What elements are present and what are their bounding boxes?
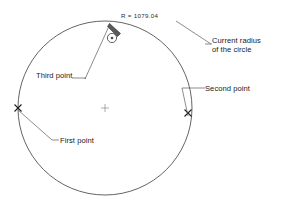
radius-readout-label: R = 1079.04 — [121, 11, 158, 20]
third-point-annotation: Third point — [36, 71, 72, 80]
second-point-annotation: Second point — [205, 84, 250, 93]
current-radius-leader-line — [176, 21, 211, 44]
circle-snap-center-dot-icon — [111, 37, 114, 40]
current-radius-line-2: of the circle — [212, 45, 251, 54]
diagram-canvas — [0, 0, 285, 210]
second-point-leader-line — [182, 88, 205, 116]
third-point-leader-line — [85, 25, 110, 79]
current-radius-line-1: Current radius — [212, 36, 261, 45]
first-point-leader-line — [18, 110, 59, 140]
first-point-annotation: First point — [60, 136, 94, 145]
circle-center-mark — [101, 104, 109, 112]
current-radius-annotation: Current radius of the circle — [212, 36, 282, 54]
circle-construction-diagram: R = 1079.04 Current radius of the circle… — [0, 0, 285, 210]
